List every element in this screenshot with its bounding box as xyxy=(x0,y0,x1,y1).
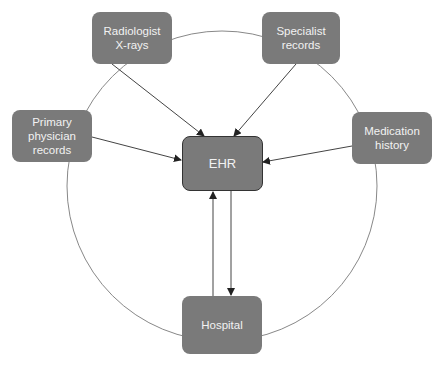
node-medication-history: Medication history xyxy=(352,112,432,164)
edge-specialist-ehr xyxy=(234,64,296,136)
edge-medication-ehr xyxy=(263,146,352,162)
node-ehr: EHR xyxy=(182,136,263,191)
edge-radiologist-ehr xyxy=(112,64,204,136)
node-specialist-records: Specialist records xyxy=(262,12,340,64)
edge-radiologist-ehr-2 xyxy=(138,64,204,136)
node-radiologist-xrays: Radiologist X-rays xyxy=(92,12,172,64)
node-hospital: Hospital xyxy=(182,296,262,354)
edge-primary-ehr xyxy=(92,137,181,160)
node-primary-physician-records: Primary physician records xyxy=(12,110,92,162)
